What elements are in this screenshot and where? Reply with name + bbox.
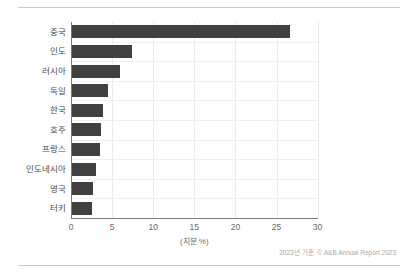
- gridline-y-4: [71, 100, 318, 101]
- bar: [71, 65, 120, 78]
- bar: [71, 25, 290, 38]
- category-label: 중국: [0, 27, 66, 37]
- bar: [71, 104, 103, 117]
- x-tick-30: 30: [313, 222, 322, 232]
- gridline-y-7: [71, 159, 318, 160]
- gridline-y-6: [71, 140, 318, 141]
- gridline-x-30: [318, 22, 319, 218]
- bar: [71, 182, 93, 195]
- gridline-y-5: [71, 120, 318, 121]
- gridline-y-3: [71, 81, 318, 82]
- x-tick-20: 20: [231, 222, 240, 232]
- plot-area: [71, 22, 318, 218]
- x-tick-0: 0: [69, 222, 74, 232]
- horizontal-bar-chart: 중국인도러시아독일한국호주프랑스인도네시아영국터키 051015202530 (…: [0, 0, 414, 274]
- gridline-y-1: [71, 42, 318, 43]
- category-label: 러시아: [0, 66, 66, 76]
- category-label: 독일: [0, 86, 66, 96]
- x-tick-15: 15: [190, 222, 199, 232]
- x-axis-line: [71, 218, 318, 219]
- category-label: 한국: [0, 105, 66, 115]
- category-axis-labels: 중국인도러시아독일한국호주프랑스인도네시아영국터키: [0, 22, 66, 218]
- category-label: 영국: [0, 184, 66, 194]
- category-label: 프랑스: [0, 144, 66, 154]
- x-axis-title: (지분 %): [180, 235, 209, 246]
- bar: [71, 163, 96, 176]
- footer-divider: [18, 265, 400, 266]
- bar: [71, 202, 92, 215]
- y-axis-line: [71, 22, 72, 218]
- category-label: 인도네시아: [0, 164, 66, 174]
- bar: [71, 84, 108, 97]
- category-label: 호주: [0, 125, 66, 135]
- category-label: 인도: [0, 46, 66, 56]
- gridline-y-8: [71, 179, 318, 180]
- x-tick-5: 5: [110, 222, 115, 232]
- x-tick-10: 10: [148, 222, 157, 232]
- bar: [71, 45, 132, 58]
- bar: [71, 143, 100, 156]
- gridline-y-9: [71, 198, 318, 199]
- category-label: 터키: [0, 203, 66, 213]
- bar: [71, 123, 101, 136]
- x-tick-25: 25: [272, 222, 281, 232]
- source-footnote: 2023년 기준. © A&B Annual Report 2023: [279, 247, 396, 257]
- gridline-y-2: [71, 61, 318, 62]
